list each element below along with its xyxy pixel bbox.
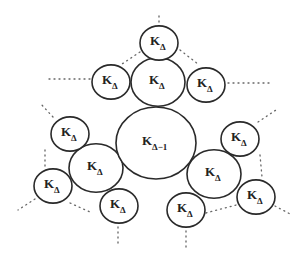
dotted-edge [206,205,236,213]
clique-node-top-hub: KΔ [131,58,185,107]
clique-subscript: Δ [112,81,118,91]
clique-node-left-hub: KΔ [69,144,123,193]
dotted-edge [18,199,35,210]
clique-node-top-right: KΔ [187,68,225,102]
clique-subscript: Δ [207,84,213,94]
clique-node-right-lower: KΔ [237,180,275,214]
clique-subscript: Δ [241,138,247,148]
dotted-edge [180,50,198,64]
clique-subscript: Δ [187,209,193,219]
clique-subscript: Δ−1 [152,142,168,152]
clique-subscript: Δ [97,167,103,177]
clique-node-top-left: KΔ [92,65,130,99]
clique-subscript: Δ [159,81,165,91]
dotted-edge [258,110,276,122]
clique-subscript: Δ [120,205,126,215]
clique-node-left-lower: KΔ [34,169,72,203]
clique-node-right-hub: KΔ [187,150,241,199]
clique-node-top-top: KΔ [140,26,178,60]
clique-node-right-upper: KΔ [221,122,259,156]
clique-subscript: Δ [257,196,263,206]
clique-node-left-bottom: KΔ [100,189,138,223]
center-clique-node: KΔ−1 [116,107,196,179]
dotted-edge [40,103,53,117]
dotted-edge [122,52,140,64]
dotted-edge [275,206,292,215]
dotted-edge [260,155,262,177]
clique-node-left-upper: KΔ [51,117,89,151]
clique-subscript: Δ [160,42,166,52]
clique-nodes: KΔKΔKΔKΔKΔKΔKΔKΔKΔKΔKΔKΔKΔ−1 [34,26,275,227]
clique-subscript: Δ [215,173,221,183]
clique-subscript: Δ [54,185,60,195]
clique-tree-diagram: KΔKΔKΔKΔKΔKΔKΔKΔKΔKΔKΔKΔKΔ−1 [0,0,306,257]
clique-subscript: Δ [71,133,77,143]
clique-node-right-bottom: KΔ [167,193,205,227]
dotted-edge [70,203,90,212]
